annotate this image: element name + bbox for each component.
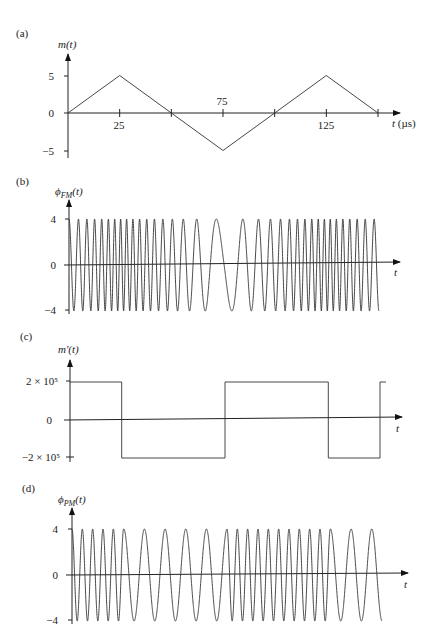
panel-a-xlabel: t (µs): [392, 117, 416, 130]
panel-c-x-axis: [64, 417, 402, 420]
panel-b-ytick: 4: [51, 213, 57, 225]
panel-b-label: (b): [16, 175, 29, 188]
panel-b-ytick: 0: [51, 259, 57, 271]
panel-b: (b) ϕFM(t) 4 0 −4 t: [16, 175, 400, 316]
panel-a-label: (a): [16, 27, 29, 40]
panel-a-ytick: 0: [49, 107, 55, 119]
panel-d-ylabel: ϕPM(t): [58, 493, 86, 508]
panel-a-xtick: 125: [318, 119, 335, 131]
panel-d-ytick: 4: [53, 523, 59, 535]
figure: (a) m(t) 5 0 −5 25 75 125 t (µs) (b) ϕFM…: [0, 0, 428, 641]
panel-c-ylabel: m′(t): [58, 343, 79, 356]
panel-c-ytick: 0: [47, 414, 53, 426]
panel-d-ytick: 0: [53, 569, 59, 581]
panel-b-xlabel: t: [394, 266, 398, 278]
panel-a-ytick: −5: [42, 145, 54, 157]
panel-b-ytick: −4: [44, 304, 56, 316]
panel-a-xtick: 75: [217, 95, 229, 107]
panel-c: (c) m′(t) 2 × 10⁵ 0 −2 × 10⁵ t: [20, 330, 402, 463]
panel-b-x-axis: [64, 262, 400, 265]
panel-c-xlabel: t: [396, 422, 400, 434]
panel-c-ytick: 2 × 10⁵: [26, 375, 58, 387]
panel-a: (a) m(t) 5 0 −5 25 75 125 t (µs): [16, 27, 416, 158]
panel-d-label: (d): [22, 482, 35, 495]
panel-d-xlabel: t: [404, 578, 408, 590]
panel-c-ytick: −2 × 10⁵: [22, 451, 60, 463]
panel-d-ytick: −4: [46, 614, 58, 626]
panel-b-ylabel: ϕFM(t): [55, 185, 83, 200]
panel-a-ylabel: m(t): [58, 38, 77, 51]
panel-a-xtick: 25: [114, 119, 126, 131]
panel-d: (d) ϕPM(t) 4 0 −4 t: [22, 482, 408, 626]
panel-c-label: (c): [20, 330, 33, 343]
panel-a-ytick: 5: [49, 70, 55, 82]
